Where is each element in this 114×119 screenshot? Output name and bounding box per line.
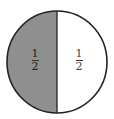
right-fraction-label: 1 2 — [69, 48, 89, 73]
fraction-circle — [0, 0, 114, 119]
left-fraction-label: 1 2 — [25, 48, 45, 73]
right-denominator: 2 — [76, 60, 83, 73]
left-denominator: 2 — [32, 60, 39, 73]
right-numerator: 1 — [76, 47, 83, 60]
left-numerator: 1 — [32, 47, 39, 60]
